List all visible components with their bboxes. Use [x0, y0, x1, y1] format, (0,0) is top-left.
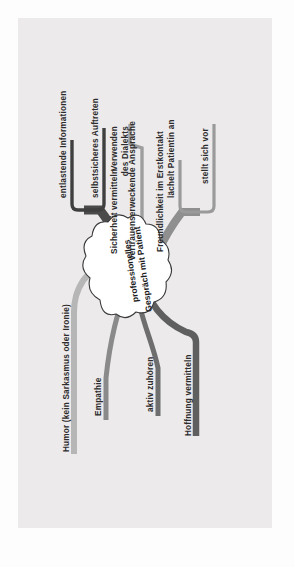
mindmap-canvas: professionelles Gespräch mit Patient Fre…: [18, 18, 272, 528]
mindmap-canvas-wrapper: professionelles Gespräch mit Patient Fre…: [18, 18, 272, 528]
branch-label-selbstsicheres-auftreten[interactable]: selbstsicheres Auftreten: [91, 98, 100, 198]
branch-label-sicherheit-vermitteln[interactable]: Sicherheit vermitteln: [110, 169, 119, 254]
scanned-page: professionelles Gespräch mit Patient Fre…: [0, 0, 294, 567]
branch-label-aktiv-zuhoeren[interactable]: aktiv zuhören: [146, 357, 155, 412]
branch-label-empathie[interactable]: Empathie: [94, 378, 103, 416]
branch-label-freundlichkeit[interactable]: Freundlichkeit im Erstkontakt: [156, 131, 165, 252]
branch-label-humor[interactable]: Humor (kein Sarkasmus oder Ironie): [62, 304, 71, 452]
branch-label-stellt-sich-vor[interactable]: stellt sich vor: [201, 128, 210, 184]
dialekt-line1: Verwenden: [110, 126, 119, 171]
branch-label-entlastende-informationen[interactable]: entlastende Informationen: [59, 91, 68, 198]
branch-label-hoffnung-vermitteln[interactable]: Hoffnung vermitteln: [184, 354, 193, 436]
dialekt-line2: des Dialekts: [121, 126, 130, 176]
branch-label-laechelt-patientin-an[interactable]: lächelt Patientin an: [167, 119, 176, 198]
